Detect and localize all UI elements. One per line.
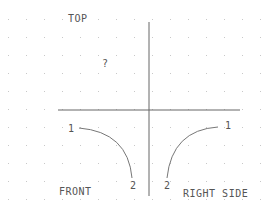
grid-dot [98, 199, 99, 200]
front-curve-point-1-label: 1 [68, 124, 75, 134]
grid-dot [206, 73, 207, 74]
grid-dot [260, 19, 261, 20]
grid-dot [206, 37, 207, 38]
grid-dot [134, 91, 135, 92]
grid-dot [26, 163, 27, 164]
grid-dot [242, 73, 243, 74]
grid-dot [260, 127, 261, 128]
grid-dot [62, 199, 63, 200]
grid-dot [62, 145, 63, 146]
grid-dot [26, 145, 27, 146]
grid-dot [152, 19, 153, 20]
grid-dot [26, 55, 27, 56]
grid-dot [134, 127, 135, 128]
grid-dot [260, 109, 261, 110]
grid-dot [116, 145, 117, 146]
grid-dot [8, 73, 9, 74]
grid-dot [206, 91, 207, 92]
grid-dot [242, 55, 243, 56]
grid-dot [62, 19, 63, 20]
grid-dot [8, 37, 9, 38]
grid-dot [188, 55, 189, 56]
grid-dot [116, 91, 117, 92]
grid-dot [170, 37, 171, 38]
grid-dot [44, 163, 45, 164]
grid-dot [260, 181, 261, 182]
grid-dot [188, 127, 189, 128]
grid-dot [224, 19, 225, 20]
grid-dot [206, 55, 207, 56]
grid-dot [80, 181, 81, 182]
grid-dot [98, 37, 99, 38]
front-curve-point-2-label: 2 [130, 181, 137, 191]
grid-dot [80, 91, 81, 92]
grid-dot [62, 181, 63, 182]
right-side-view-curve [167, 127, 218, 178]
grid-dot [26, 37, 27, 38]
grid-dot [188, 37, 189, 38]
grid-dot [116, 19, 117, 20]
grid-dot [224, 199, 225, 200]
grid-dot [188, 145, 189, 146]
grid-dot [26, 73, 27, 74]
grid-dot [116, 73, 117, 74]
grid-dot [44, 19, 45, 20]
grid-dot [134, 163, 135, 164]
right-curve-point-2-label: 2 [164, 181, 171, 191]
grid-dot [8, 145, 9, 146]
grid-dot [80, 199, 81, 200]
grid-dot [44, 37, 45, 38]
grid-dot [98, 91, 99, 92]
grid-dot [98, 73, 99, 74]
grid-dot [8, 91, 9, 92]
grid-dot [152, 163, 153, 164]
grid-dot [98, 163, 99, 164]
front-view-label: FRONT [59, 187, 92, 197]
top-view-label: TOP [68, 14, 88, 24]
grid-dot [170, 19, 171, 20]
grid-dot [134, 73, 135, 74]
grid-dot [170, 127, 171, 128]
grid-dot [26, 109, 27, 110]
grid-dot [98, 181, 99, 182]
grid-dot [242, 163, 243, 164]
grid-dot [98, 55, 99, 56]
grid-dot [170, 73, 171, 74]
grid-dot [8, 181, 9, 182]
grid-dot [116, 127, 117, 128]
grid-dot [206, 199, 207, 200]
grid-dot [134, 37, 135, 38]
grid-dot [170, 55, 171, 56]
grid-dot [8, 55, 9, 56]
grid-dot [206, 127, 207, 128]
grid-dot [224, 37, 225, 38]
grid-dot [26, 127, 27, 128]
grid-dot [134, 145, 135, 146]
grid-dot [80, 163, 81, 164]
grid-dot [116, 37, 117, 38]
grid-dot [26, 181, 27, 182]
grid-dot [44, 127, 45, 128]
grid-dot [260, 55, 261, 56]
grid-dot [260, 145, 261, 146]
grid-dot [8, 109, 9, 110]
right-side-view-label: RIGHT SIDE [183, 189, 248, 199]
grid-dot [134, 199, 135, 200]
grid-dot [170, 91, 171, 92]
grid-dot [8, 199, 9, 200]
grid-dot [80, 55, 81, 56]
grid-dot [152, 91, 153, 92]
grid-dot [152, 181, 153, 182]
grid-dot [134, 19, 135, 20]
grid-dot [206, 145, 207, 146]
grid-dot [260, 73, 261, 74]
grid-dot [188, 181, 189, 182]
grid-dot [260, 163, 261, 164]
grid-dot [80, 145, 81, 146]
grid-dot [44, 73, 45, 74]
grid-dot [116, 55, 117, 56]
grid-dot [44, 199, 45, 200]
grid-dot [62, 55, 63, 56]
grid-dot [170, 145, 171, 146]
grid-dot [242, 145, 243, 146]
